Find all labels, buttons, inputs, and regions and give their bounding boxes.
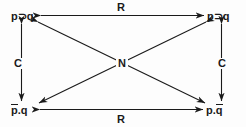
node-bottom-right: p.q: [206, 104, 223, 116]
node-top-right-q: q: [223, 10, 230, 22]
edge-label-right-C: C: [216, 58, 228, 69]
edge-label-bottom-R: R: [117, 114, 125, 125]
node-top-left-p: p: [11, 10, 18, 22]
node-bottom-left-q: q: [21, 104, 28, 116]
edge-label-center-N: N: [116, 58, 128, 69]
node-top-left-operator: ⊃: [18, 10, 27, 22]
node-top-left: p⊃q: [11, 11, 33, 22]
node-bottom-left-p-negated: p: [11, 104, 18, 116]
node-top-right-operator: ⊃: [214, 10, 223, 22]
node-top-left-q: q: [27, 10, 34, 22]
edge-label-top-R: R: [117, 2, 125, 13]
edge-label-left-C: C: [12, 58, 24, 69]
node-bottom-right-p: p: [206, 104, 213, 116]
node-top-right: p⊃q: [207, 11, 229, 22]
node-bottom-right-q-negated: q: [216, 104, 223, 116]
node-bottom-left: p.q: [11, 104, 28, 116]
node-top-right-p: p: [207, 10, 214, 22]
logic-square-diagram: p⊃q p⊃q p.q p.q R R C C N: [0, 0, 246, 127]
